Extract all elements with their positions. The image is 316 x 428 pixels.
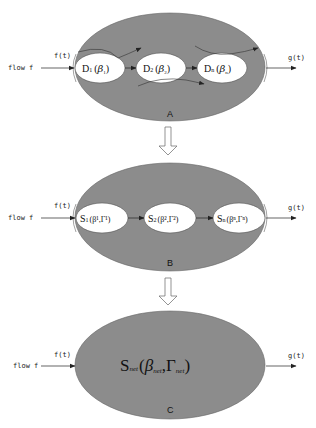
- node-s1-label: S1(β¹,Γ¹): [80, 213, 111, 224]
- panel-c: flow f f(t) g(t) Snet(βnet,Γnet) C: [13, 311, 305, 419]
- node-sn-label: Sn(βⁿ,Γⁿ): [217, 213, 248, 224]
- output-signal-c: g(t): [288, 352, 305, 360]
- input-signal-b: f(t): [54, 202, 71, 210]
- panel-label-b: B: [167, 258, 173, 268]
- input-label-b: flow f: [8, 214, 33, 222]
- node-dn-label: Dn(βn): [204, 63, 231, 75]
- node-d2-label: D2(β2): [143, 63, 170, 75]
- panel-a: flow f f(t) g(t) D1(β1) D2(β2) Dn(βn) A: [8, 13, 305, 121]
- node-d1-label: D1(β1): [82, 63, 109, 75]
- diagram-canvas: flow f f(t) g(t) D1(β1) D2(β2) Dn(βn) A …: [0, 0, 316, 428]
- input-signal-c: f(t): [54, 351, 71, 359]
- output-signal-a: g(t): [288, 54, 305, 62]
- node-s2-label: S2(β²,Γ²): [148, 213, 179, 224]
- panel-label-c: C: [167, 405, 174, 415]
- input-label-a: flow f: [8, 64, 33, 72]
- transition-arrow-bc: [159, 278, 177, 305]
- input-label-c: flow f: [13, 362, 38, 370]
- output-signal-b: g(t): [288, 204, 305, 212]
- panel-label-a: A: [167, 109, 173, 119]
- input-signal-a: f(t): [54, 52, 71, 60]
- transition-arrow-ab: [159, 127, 177, 155]
- panel-b: flow f f(t) g(t) S1(β¹,Γ¹) S2(β²,Γ²) Sn(…: [8, 163, 305, 271]
